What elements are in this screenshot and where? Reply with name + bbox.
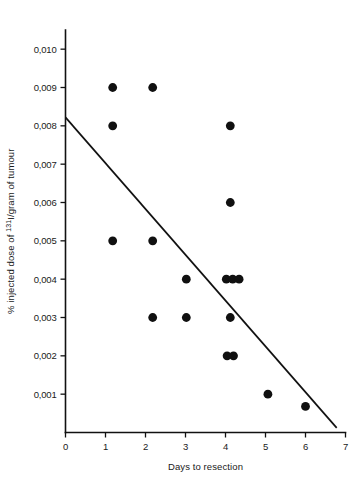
data-point (229, 351, 238, 360)
y-tick-label: 0,002 (34, 350, 57, 361)
data-point (226, 198, 235, 207)
x-tick-label: 3 (183, 441, 188, 452)
x-axis-title: Days to resection (168, 461, 243, 472)
x-tick-label: 1 (103, 441, 108, 452)
y-tick-label: 0,009 (34, 82, 57, 93)
x-tick-label: 0 (63, 441, 68, 452)
y-tick-label: 0,006 (34, 197, 57, 208)
y-tick-label: 0,003 (34, 312, 57, 323)
y-axis-group: 0,0010,0020,0030,0040,0050,0060,0070,008… (34, 30, 66, 433)
data-point (226, 313, 235, 322)
x-tick-label: 6 (303, 441, 308, 452)
data-point (108, 83, 117, 92)
scatter-chart: 0,0010,0020,0030,0040,0050,0060,0070,008… (0, 0, 360, 489)
data-point (108, 121, 117, 130)
y-tick-label: 0,008 (34, 120, 57, 131)
x-axis-group: 01234567 (63, 433, 348, 452)
trend-line (66, 117, 337, 428)
x-tick-label: 2 (143, 441, 148, 452)
y-axis-tick-labels: 0,0010,0020,0030,0040,0050,0060,0070,008… (34, 44, 57, 400)
data-point (226, 121, 235, 130)
plot-area: 0,0010,0020,0030,0040,0050,0060,0070,008… (0, 0, 360, 489)
y-tick-label: 0,005 (34, 235, 57, 246)
y-tick-label: 0,007 (34, 159, 57, 170)
x-tick-label: 7 (343, 441, 348, 452)
data-point (148, 313, 157, 322)
data-point (148, 83, 157, 92)
data-point (108, 236, 117, 245)
data-point (182, 313, 191, 322)
data-point (235, 275, 244, 284)
y-axis-title: % injected dose of 131I/gram of tumour (5, 149, 17, 314)
data-point (301, 402, 310, 411)
x-axis-tick-labels: 01234567 (63, 441, 348, 452)
data-point (264, 390, 273, 399)
x-tick-label: 4 (223, 441, 228, 452)
data-point (182, 275, 191, 284)
y-tick-label: 0,004 (34, 274, 57, 285)
x-tick-label: 5 (263, 441, 268, 452)
data-point (148, 236, 157, 245)
y-tick-label: 0,010 (34, 44, 57, 55)
y-tick-label: 0,001 (34, 389, 57, 400)
